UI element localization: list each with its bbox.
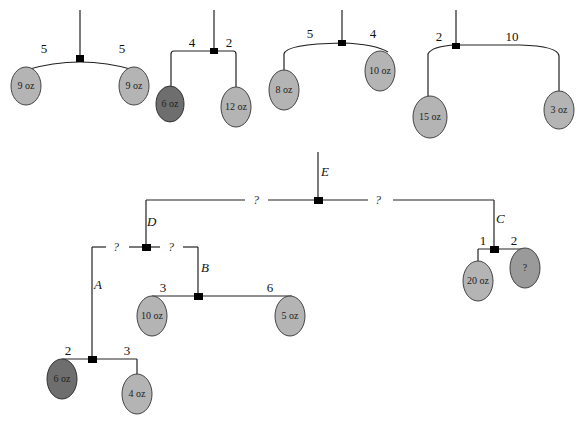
- weight-right-label: 12 oz: [225, 101, 248, 112]
- right-arm-length: 10: [506, 29, 519, 44]
- pivot-icon: [76, 55, 84, 62]
- weight-left-label: 6 oz: [162, 98, 180, 109]
- c-right-arm-length: 2: [511, 233, 518, 248]
- label-a: A: [93, 277, 102, 292]
- mobile-diagram: 5 5 9 oz 9 oz 4 2 6 oz 12 oz 5 4 8 oz 10…: [0, 0, 582, 422]
- a-right-arm-length: 3: [124, 343, 131, 358]
- d-left-arm-unknown: ?: [113, 240, 119, 254]
- label-c: C: [496, 211, 505, 226]
- mobile-4: 2 10 15 oz 3 oz: [413, 10, 574, 138]
- mobile-1: 5 5 9 oz 9 oz: [11, 10, 149, 105]
- b-left-arm-length: 3: [160, 280, 167, 295]
- balance-bar: [171, 51, 236, 87]
- weight-right-label: 9 oz: [126, 80, 144, 91]
- weight-left-label: 9 oz: [18, 80, 36, 91]
- top-right-arm-unknown: ?: [375, 193, 381, 207]
- label-b: B: [201, 260, 209, 275]
- pivot-icon: [88, 356, 97, 363]
- weight-right-label: 3 oz: [551, 104, 569, 115]
- left-arm-length: 5: [307, 26, 314, 41]
- b-weight-right-label: 5 oz: [282, 310, 300, 321]
- a-left-arm-length: 2: [65, 343, 72, 358]
- pivot-icon: [194, 293, 203, 300]
- weight-right-label: 10 oz: [369, 65, 392, 76]
- top-left-arm-unknown: ?: [253, 193, 259, 207]
- balance-bar: [428, 45, 559, 98]
- pivot-icon: [452, 43, 460, 49]
- pivot-icon: [338, 40, 346, 46]
- pivot-icon: [142, 244, 151, 251]
- compound-mobile: E ? ? D ? ? A B 3 6 10 oz 5 oz: [47, 152, 540, 414]
- pivot-icon: [210, 48, 218, 54]
- left-arm-length: 2: [436, 29, 443, 44]
- c-weight-left-label: 20 oz: [467, 275, 490, 286]
- c-left-arm-length: 1: [480, 233, 487, 248]
- label-e: E: [320, 164, 329, 179]
- mobile-3: 5 4 8 oz 10 oz: [269, 10, 395, 110]
- pivot-icon: [490, 246, 499, 253]
- b-right-arm-length: 6: [267, 280, 274, 295]
- right-arm-length: 2: [226, 35, 233, 50]
- weight-left-label: 8 oz: [276, 84, 294, 95]
- b-weight-left-label: 10 oz: [141, 310, 164, 321]
- right-arm-length: 4: [370, 26, 377, 41]
- c-weight-right-label: ?: [523, 262, 528, 273]
- left-arm-length: 5: [41, 41, 48, 56]
- label-d: D: [146, 214, 157, 229]
- a-weight-right-label: 4 oz: [129, 388, 147, 399]
- balance-bar: [26, 62, 134, 70]
- right-arm-length: 5: [119, 41, 126, 56]
- d-right-arm-unknown: ?: [168, 240, 174, 254]
- mobile-2: 4 2 6 oz 12 oz: [156, 10, 251, 127]
- weight-left-label: 15 oz: [419, 111, 442, 122]
- pivot-icon: [314, 197, 323, 204]
- a-weight-left-label: 6 oz: [54, 373, 72, 384]
- left-arm-length: 4: [189, 35, 196, 50]
